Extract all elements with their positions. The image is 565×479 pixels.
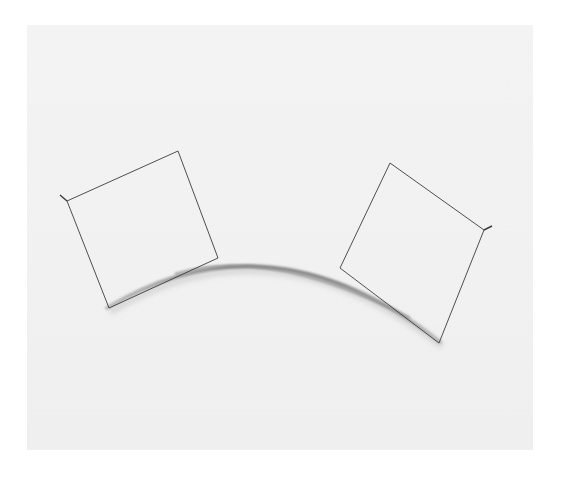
right-wire-square <box>340 163 492 343</box>
curved-arc <box>107 266 440 342</box>
left-wire-square <box>60 151 218 308</box>
wire-sculpture <box>0 0 565 479</box>
